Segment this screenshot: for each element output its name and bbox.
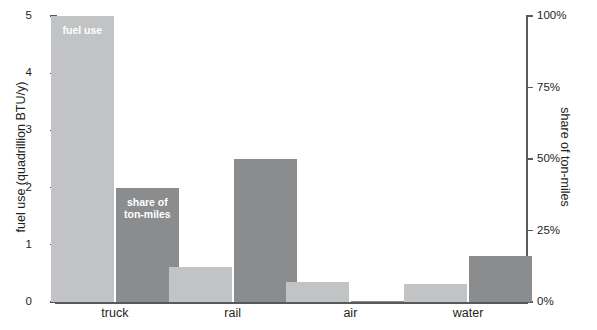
right-axis-tick-label: 75% (537, 82, 560, 94)
left-axis-tick-label: 5 (26, 10, 32, 22)
left-axis-title: fuel use (quadrillion BTU/y) (14, 62, 28, 252)
bar-fuel-use-water (404, 284, 467, 302)
x-axis-category-label-water: water (418, 306, 518, 320)
share-annotation-line1: share of (127, 196, 168, 208)
right-axis-tick (528, 230, 533, 231)
right-axis-tick (528, 158, 533, 159)
left-axis-tick-label: 0 (26, 296, 32, 308)
x-axis-category-label-rail: rail (183, 306, 283, 320)
right-axis-tick-label: 100% (537, 10, 566, 22)
right-axis-tick-label: 25% (537, 225, 560, 237)
right-axis-title: share of ton-miles (558, 62, 572, 252)
right-axis-tick-label: 0% (537, 296, 554, 308)
bar-share-of-ton-miles-water (469, 256, 532, 302)
share-of-ton-miles-bar-annotation: share of ton-miles (116, 196, 179, 220)
right-axis-tick (528, 87, 533, 88)
x-axis-category-label-air: air (300, 306, 400, 320)
bar-fuel-use-rail (169, 267, 232, 302)
bar-fuel-use-air (286, 282, 349, 302)
x-axis-category-label-truck: truck (65, 306, 165, 320)
bar-fuel-use-truck (51, 16, 114, 302)
x-axis-line (55, 302, 528, 304)
right-axis-tick-label: 50% (537, 153, 560, 165)
bar-chart: 012345 0%25%50%75%100% fuel use (quadril… (0, 0, 597, 330)
right-axis-tick (528, 15, 533, 16)
bar-share-of-ton-miles-rail (234, 159, 297, 302)
share-annotation-line2: ton-miles (124, 208, 171, 220)
fuel-use-bar-annotation: fuel use (51, 24, 114, 36)
